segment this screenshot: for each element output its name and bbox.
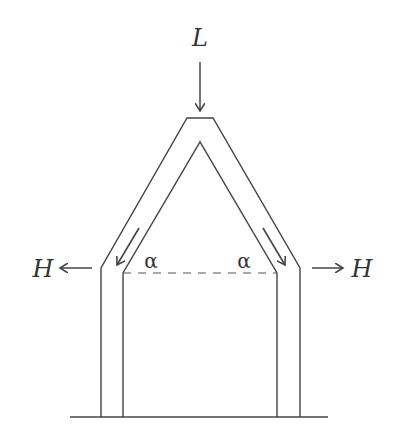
left-h-label: H [32, 255, 55, 283]
right-angle-label: α [237, 249, 251, 273]
left-angle-label: α [144, 249, 158, 273]
frame-outer-outline [101, 118, 300, 417]
right-h-label: H [351, 255, 374, 283]
structure-diagram: L H H α α [0, 0, 395, 445]
frame-inner-outline [123, 142, 277, 417]
diagram-canvas: L H H α α [0, 0, 395, 445]
load-label: L [191, 24, 208, 52]
right-rafter-thrust-arrow-icon [263, 228, 285, 265]
